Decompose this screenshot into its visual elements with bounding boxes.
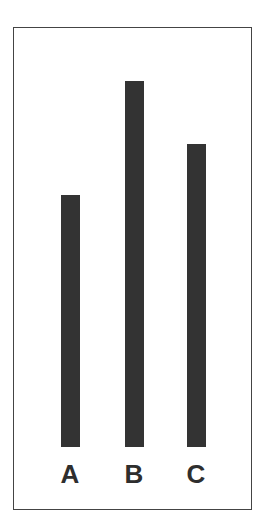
bar-b: [125, 81, 144, 447]
category-label-a: A: [55, 461, 85, 487]
bar-c: [187, 144, 206, 447]
category-label-c: C: [181, 461, 211, 487]
category-label-b: B: [119, 461, 149, 487]
bar-a: [61, 195, 80, 447]
